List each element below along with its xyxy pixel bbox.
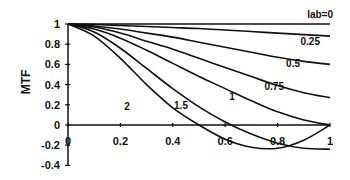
- y-tick-label: 0: [54, 119, 60, 131]
- y-tick-label: 0.2: [45, 99, 60, 111]
- series-label: 2: [124, 101, 130, 112]
- y-tick-label: 0.8: [45, 38, 60, 50]
- series-label: 1.5: [174, 100, 188, 111]
- chart-canvas: 10.80.60.40.20-0.2-0.400.20.40.60.81 lab…: [0, 0, 350, 180]
- mtf-chart: 10.80.60.40.20-0.2-0.400.20.40.60.81 lab…: [0, 0, 350, 180]
- y-tick-label: 0.6: [45, 58, 60, 70]
- x-tick-label: 1: [327, 135, 333, 147]
- series-label: 0.75: [265, 81, 285, 92]
- y-axis-label: MTF: [19, 70, 33, 95]
- y-tick-label: 1: [54, 18, 60, 30]
- series-label: 1: [229, 91, 235, 102]
- y-tick-label: -0.4: [41, 159, 61, 171]
- x-tick-label: 0.2: [113, 135, 128, 147]
- x-tick-label: 0: [65, 135, 71, 147]
- y-tick-label: 0.4: [45, 79, 61, 91]
- axes: 10.80.60.40.20-0.2-0.400.20.40.60.81: [41, 18, 333, 171]
- series-label: lab=0: [307, 9, 333, 20]
- series-lines: [68, 24, 330, 149]
- series-label: 0.5: [286, 58, 300, 69]
- series-label: 0.25: [301, 36, 321, 47]
- x-tick-label: 0.4: [165, 135, 181, 147]
- y-tick-label: -0.2: [41, 139, 60, 151]
